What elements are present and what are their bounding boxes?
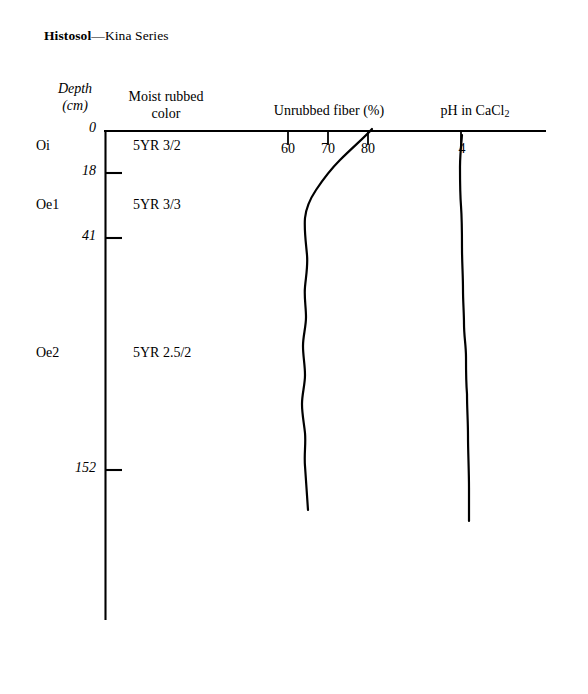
profile-line-art bbox=[0, 0, 588, 694]
unrubbed-fiber-curve bbox=[302, 129, 372, 510]
soil-profile-figure: Histosol—Kina Series Depth (cm) Moist ru… bbox=[0, 0, 588, 694]
ph-curve bbox=[460, 135, 469, 521]
